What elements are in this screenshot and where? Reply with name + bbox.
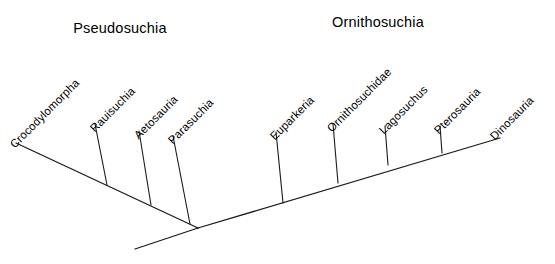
root-stem-line [135, 228, 198, 249]
clade-title-pseudosuchia: Pseudosuchia [73, 20, 167, 36]
cladogram-figure: PseudosuchiaOrnithosuchia Crocodylomorph… [0, 0, 555, 264]
branch-line-parasuchia [173, 136, 190, 224]
backbone-line-ornithosuchia [198, 138, 500, 228]
branch-line-euparkeria [276, 132, 283, 203]
tree-line-group [16, 124, 500, 249]
branch-line-aetosauria [139, 131, 151, 205]
clade-title-ornithosuchia: Ornithosuchia [332, 14, 424, 30]
